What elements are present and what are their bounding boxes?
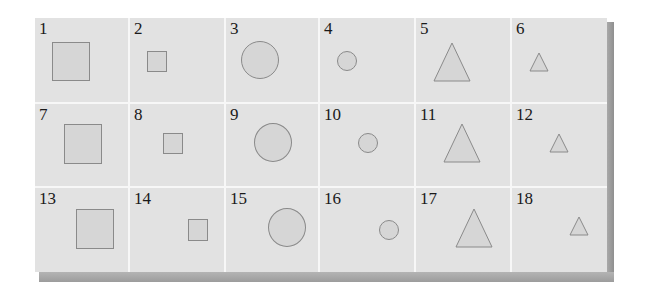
cell-16: 16 (320, 188, 416, 272)
cell-8: 8 (130, 104, 226, 188)
cell-9: 9 (226, 104, 320, 188)
large-triangle-shape (455, 208, 493, 248)
cell-number: 10 (324, 106, 341, 123)
cell-number: 9 (230, 106, 239, 123)
cell-number: 3 (230, 20, 239, 37)
cell-number: 14 (134, 190, 151, 207)
cell-11: 11 (416, 104, 512, 188)
small-circle-shape (358, 133, 378, 153)
cell-12: 12 (512, 104, 607, 188)
cell-10: 10 (320, 104, 416, 188)
small-square-shape (163, 133, 183, 154)
cell-number: 17 (420, 190, 437, 207)
cell-18: 18 (512, 188, 607, 272)
small-square-shape (147, 51, 167, 72)
cell-2: 2 (130, 18, 226, 104)
cell-1: 1 (35, 18, 130, 104)
board-right-bevel (607, 22, 614, 282)
cell-number: 5 (420, 20, 429, 37)
cell-number: 12 (516, 106, 533, 123)
large-circle-shape (254, 123, 292, 162)
cell-15: 15 (226, 188, 320, 272)
cell-4: 4 (320, 18, 416, 104)
cell-number: 13 (39, 190, 56, 207)
cell-number: 8 (134, 106, 143, 123)
cell-5: 5 (416, 18, 512, 104)
small-triangle-shape (529, 52, 549, 72)
large-triangle-shape (443, 123, 481, 163)
small-square-shape (188, 219, 208, 241)
cell-number: 18 (516, 190, 533, 207)
small-triangle-shape (569, 216, 589, 236)
cell-number: 1 (39, 20, 48, 37)
cell-number: 7 (39, 106, 48, 123)
shape-grid: 1 2 3 4 5 6 7 8 9 10 11 12 (35, 18, 607, 272)
cell-number: 2 (134, 20, 143, 37)
large-triangle-shape (433, 42, 471, 82)
small-circle-shape (379, 220, 399, 240)
cell-number: 11 (420, 106, 436, 123)
cell-13: 13 (35, 188, 130, 272)
cell-number: 16 (324, 190, 341, 207)
cell-14: 14 (130, 188, 226, 272)
large-square-shape (76, 209, 114, 249)
small-circle-shape (337, 51, 357, 71)
cell-7: 7 (35, 104, 130, 188)
cell-number: 15 (230, 190, 247, 207)
large-circle-shape (241, 41, 279, 79)
board-bottom-bevel (39, 272, 614, 282)
large-square-shape (52, 42, 90, 81)
cell-number: 6 (516, 20, 525, 37)
cell-6: 6 (512, 18, 607, 104)
large-square-shape (64, 124, 102, 164)
small-triangle-shape (549, 133, 569, 153)
large-circle-shape (268, 208, 306, 247)
cell-3: 3 (226, 18, 320, 104)
cell-number: 4 (324, 20, 333, 37)
cell-17: 17 (416, 188, 512, 272)
